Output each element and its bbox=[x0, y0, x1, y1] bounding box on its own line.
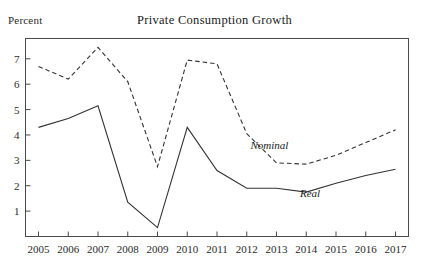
series-line-nominal bbox=[39, 47, 396, 166]
x-tick-label: 2009 bbox=[147, 243, 170, 255]
x-tick-label: 2016 bbox=[355, 243, 378, 255]
chart-container: Percent Private Consumption Growth 12345… bbox=[0, 0, 429, 260]
x-tick-label: 2007 bbox=[87, 243, 110, 255]
y-tick-label: 2 bbox=[14, 180, 20, 192]
x-tick-label: 2015 bbox=[325, 243, 348, 255]
series-line-real bbox=[39, 106, 396, 228]
y-axis-ticks: 1234567 bbox=[14, 53, 31, 217]
x-axis-ticks: 2005200620072008200920102011201220132014… bbox=[28, 232, 408, 255]
plot-frame bbox=[26, 39, 409, 237]
x-tick-label: 2012 bbox=[236, 243, 258, 255]
x-tick-label: 2005 bbox=[28, 243, 51, 255]
x-tick-label: 2014 bbox=[295, 243, 318, 255]
data-series-group bbox=[39, 47, 396, 227]
y-tick-label: 3 bbox=[14, 154, 20, 166]
x-tick-label: 2017 bbox=[385, 243, 408, 255]
x-tick-label: 2013 bbox=[266, 243, 289, 255]
plot-area: 1234567 20052006200720082009201020112012… bbox=[0, 0, 429, 260]
series-annotation-nominal: Nominal bbox=[250, 139, 289, 151]
y-tick-label: 6 bbox=[14, 78, 20, 90]
series-annotation-real: Real bbox=[299, 187, 320, 199]
y-tick-label: 7 bbox=[14, 53, 20, 65]
y-tick-label: 1 bbox=[14, 205, 20, 217]
x-tick-label: 2010 bbox=[176, 243, 199, 255]
x-tick-label: 2006 bbox=[57, 243, 80, 255]
y-tick-label: 4 bbox=[14, 129, 20, 141]
series-annotations: NominalReal bbox=[250, 139, 321, 199]
x-tick-label: 2008 bbox=[117, 243, 140, 255]
y-tick-label: 5 bbox=[14, 104, 20, 116]
x-tick-label: 2011 bbox=[206, 243, 228, 255]
